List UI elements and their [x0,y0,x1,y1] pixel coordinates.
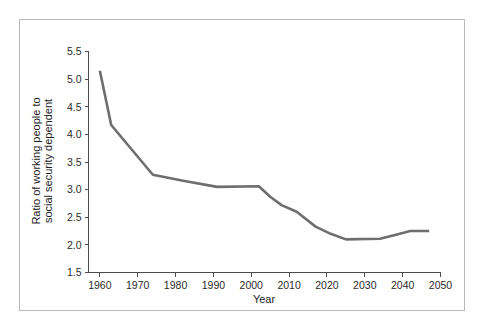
x-tick-label: 2020 [315,279,339,291]
x-tick-label: 1960 [88,279,112,291]
y-tick-label: 3.5 [67,156,82,168]
data-series-group [100,71,429,240]
y-axis: 1.52.02.53.03.54.04.55.05.5 [67,45,89,278]
chart-figure: 1.52.02.53.03.54.04.55.05.5 196019701980… [0,0,486,332]
x-tick-label: 2040 [391,279,415,291]
y-tick-label: 4.5 [67,101,82,113]
y-tick-label: 2.5 [67,211,82,223]
data-line-series-0 [100,71,429,240]
x-axis-title: Year [253,293,276,305]
y-axis-title-line2: social security dependent [42,99,54,223]
x-tick-label: 2050 [429,279,453,291]
y-tick-label: 4.0 [67,128,82,140]
x-tick-label: 1970 [126,279,150,291]
x-tick-label: 1980 [164,279,188,291]
y-axis-title-line1: Ratio of working people to [30,97,42,224]
y-axis-title: Ratio of working people to social securi… [30,97,54,224]
y-tick-label: 1.5 [67,266,82,278]
x-tick-label: 1990 [202,279,226,291]
y-tick-label: 5.5 [67,45,82,57]
y-tick-label: 3.0 [67,183,82,195]
x-tick-label: 2010 [277,279,301,291]
x-axis: 1960197019801990200020102020203020402050 [88,273,452,291]
x-tick-label: 2030 [353,279,377,291]
y-tick-label: 5.0 [67,73,82,85]
line-chart: 1.52.02.53.03.54.04.55.05.5 196019701980… [0,0,486,332]
y-tick-label: 2.0 [67,239,82,251]
x-tick-label: 2000 [240,279,264,291]
